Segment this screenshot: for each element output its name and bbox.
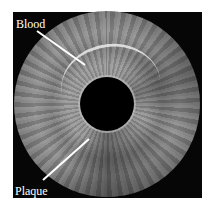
plaque-arrow bbox=[43, 139, 89, 180]
blood-label: Blood bbox=[16, 18, 45, 30]
plaque-label: Plaque bbox=[15, 185, 48, 197]
annotation-arrows bbox=[0, 0, 212, 209]
blood-arrow bbox=[37, 31, 85, 65]
